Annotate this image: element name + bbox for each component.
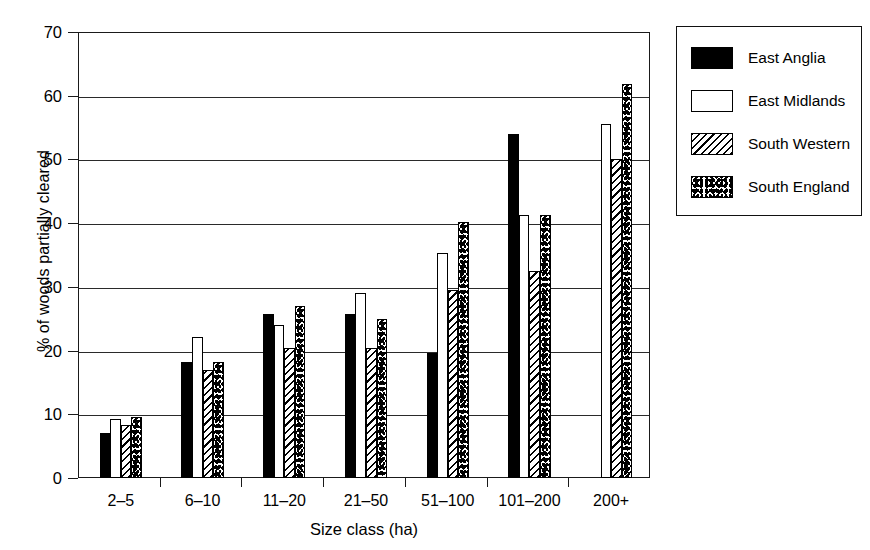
gridline (79, 97, 649, 98)
y-tick-label: 0 (10, 469, 62, 488)
x-tick-mark (241, 478, 242, 487)
legend-label: East Midlands (748, 92, 845, 110)
y-tick-label: 60 (10, 86, 62, 105)
legend-label: East Anglia (748, 49, 826, 67)
x-tick-label: 200+ (593, 492, 629, 510)
y-tick-mark (68, 351, 78, 352)
x-tick-label: 11–20 (263, 492, 306, 510)
gridline (79, 160, 649, 161)
plot-area (78, 32, 650, 478)
gridline (79, 288, 649, 289)
y-tick-mark (68, 96, 78, 97)
y-tick-label: 30 (10, 277, 62, 296)
legend-item: East Midlands (677, 87, 861, 115)
x-tick-label: 101–200 (498, 492, 560, 510)
y-tick-label: 20 (10, 341, 62, 360)
y-tick-mark (68, 414, 78, 415)
legend-swatch-dots (691, 176, 733, 198)
legend-swatch-fill (692, 134, 732, 154)
x-tick-mark (160, 478, 161, 487)
x-tick-label: 2–5 (107, 492, 134, 510)
gridline (79, 415, 649, 416)
legend-swatch-solid (691, 47, 733, 69)
y-tick-mark (68, 32, 78, 33)
chart-figure: % of woods partially cleared 01020304050… (0, 0, 870, 550)
legend-item: South Western (677, 130, 861, 158)
legend-swatch-fill (692, 48, 732, 68)
y-tick-label: 10 (10, 405, 62, 424)
legend-swatch-open (691, 90, 733, 112)
legend-label: South England (748, 178, 850, 196)
x-tick-mark (487, 478, 488, 487)
x-tick-mark (405, 478, 406, 487)
legend-label: South Western (748, 135, 850, 153)
y-tick-mark (68, 159, 78, 160)
y-tick-mark (68, 223, 78, 224)
gridline (79, 352, 649, 353)
x-tick-mark (568, 478, 569, 487)
y-tick-mark (68, 287, 78, 288)
y-tick-label: 70 (10, 23, 62, 42)
x-tick-mark (323, 478, 324, 487)
legend-item: East Anglia (677, 44, 861, 72)
y-tick-label: 50 (10, 150, 62, 169)
legend-swatch-fill (692, 177, 732, 197)
legend-item: South England (677, 173, 861, 201)
chart-legend: East AngliaEast MidlandsSouth WesternSou… (676, 26, 862, 216)
gridline (79, 224, 649, 225)
x-axis-title: Size class (ha) (78, 520, 650, 539)
x-tick-label: 51–100 (421, 492, 474, 510)
y-tick-label: 40 (10, 214, 62, 233)
x-tick-label: 21–50 (344, 492, 389, 510)
legend-swatch-fill (692, 91, 732, 111)
legend-swatch-hatch (691, 133, 733, 155)
x-tick-label: 6–10 (185, 492, 221, 510)
y-tick-mark (68, 478, 78, 479)
